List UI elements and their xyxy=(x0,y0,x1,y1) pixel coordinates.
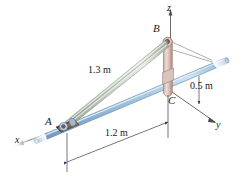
figure-canvas: B A C 1.3 m 1.2 m 0.5 m z y x xyxy=(0,0,247,180)
point-label-b: B xyxy=(153,23,160,34)
rod-end-fade-left xyxy=(15,128,47,154)
point-label-a: A xyxy=(45,116,52,127)
axis-label-x: x xyxy=(15,135,19,145)
dimension-label-0-5m: 0.5 m xyxy=(190,81,213,91)
axis-label-y: y xyxy=(216,120,220,130)
dimension-label-1-2m: 1.2 m xyxy=(105,128,128,138)
dimension-label-1-3m: 1.3 m xyxy=(88,65,111,75)
point-label-c: C xyxy=(168,95,175,106)
strut-a-to-b xyxy=(61,41,169,132)
rod-end-fade-right xyxy=(212,44,246,72)
axis-label-z: z xyxy=(167,3,171,13)
axis-y xyxy=(172,92,217,123)
